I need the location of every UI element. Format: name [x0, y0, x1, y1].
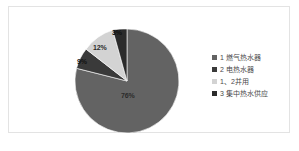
pie-svg [67, 25, 187, 137]
legend-label-central-hot-water: 3 集中热水供应 [220, 90, 268, 97]
pie-label-central-hot-water: 3% [112, 29, 122, 36]
legend-item-central-hot-water[interactable]: 3 集中热水供应 [212, 87, 296, 99]
legend-label-gas-water-heater: 1 燃气热水器 [220, 54, 261, 61]
legend-label-electric-water-heater: 2 电热水器 [220, 66, 254, 73]
pie-label-electric-water-heater: 9% [77, 58, 87, 65]
figure-container: 76% 9% 12% 3% 1 燃气热水器 2 电热水器 1、2并用 3 集中热… [0, 0, 299, 151]
legend-label-both-combined: 1、2并用 [220, 78, 249, 85]
legend-item-electric-water-heater[interactable]: 2 电热水器 [212, 63, 296, 75]
pie-label-both-combined: 12% [93, 44, 106, 51]
legend-swatch-gas-water-heater [212, 55, 217, 60]
legend-item-both-combined[interactable]: 1、2并用 [212, 75, 296, 87]
legend-swatch-electric-water-heater [212, 67, 217, 72]
pie-label-gas-water-heater: 76% [121, 92, 134, 99]
legend-item-gas-water-heater[interactable]: 1 燃气热水器 [212, 51, 296, 63]
pie-chart: 76% 9% 12% 3% [67, 25, 187, 137]
legend-swatch-both-combined [212, 79, 217, 84]
legend-swatch-central-hot-water [212, 91, 217, 96]
chart-frame: 76% 9% 12% 3% 1 燃气热水器 2 电热水器 1、2并用 3 集中热… [8, 6, 290, 133]
chart-legend: 1 燃气热水器 2 电热水器 1、2并用 3 集中热水供应 [212, 51, 296, 99]
